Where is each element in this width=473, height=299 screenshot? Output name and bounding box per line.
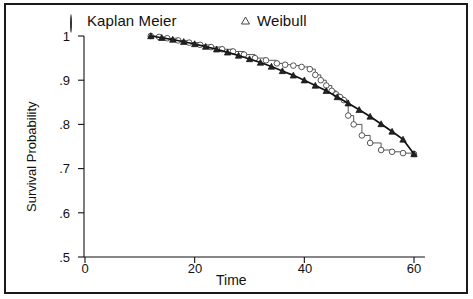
survival-plot-figure: Kaplan Meier Weibull Survival Probabilit… [0, 0, 473, 299]
plot-canvas [0, 0, 473, 299]
